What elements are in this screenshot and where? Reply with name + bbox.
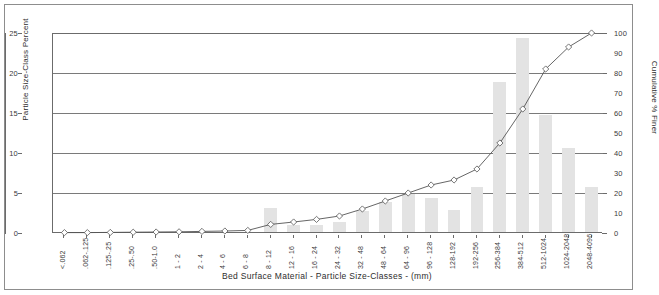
x-axis-tick-label: 2 - 4 xyxy=(197,254,204,269)
x-axis-tick-label: 128-192 xyxy=(449,242,456,269)
x-axis-tick-label: 48 - 64 xyxy=(380,246,387,269)
y-axis-right-tick-label: 70 xyxy=(614,89,640,98)
y-axis-left-tick-label: 20 xyxy=(0,69,18,78)
x-axis-tick-label: 16 - 24 xyxy=(311,246,318,269)
x-axis-tick-mark xyxy=(293,235,294,238)
data-point-marker xyxy=(588,30,594,36)
x-axis-tick-mark xyxy=(132,235,133,238)
plot-area xyxy=(52,33,602,233)
x-axis-tick-mark xyxy=(476,235,477,238)
y-axis-left-tick-label: 5 xyxy=(0,189,18,198)
y-axis-left-title: Particle Size-Class Percent xyxy=(21,0,30,145)
y-axis-right-tick-label: 10 xyxy=(614,209,640,218)
y-axis-left-tick-label: 25 xyxy=(0,29,18,38)
data-point-marker xyxy=(451,177,457,183)
y-axis-left-tick-mark xyxy=(18,153,22,154)
data-point-marker xyxy=(268,221,274,227)
x-axis-tick-mark xyxy=(384,235,385,238)
x-axis-tick-label: 1 - 2 xyxy=(174,254,181,269)
y-axis-right-tick-label: 0 xyxy=(614,229,640,238)
x-axis-tick-mark xyxy=(178,235,179,238)
data-point-marker xyxy=(336,213,342,219)
x-axis-tick-mark xyxy=(453,235,454,238)
y-axis-left-tick-label: 10 xyxy=(0,149,18,158)
x-axis-tick-label: 12 - 16 xyxy=(288,246,295,269)
x-axis-title: Bed Surface Material - Particle Size-Cla… xyxy=(52,271,602,281)
chart-frame: 0510152025 Particle Size-Class Percent 0… xyxy=(4,4,633,290)
y-axis-right-tick-mark xyxy=(602,233,607,234)
x-axis-tick-label: .25-.50 xyxy=(128,246,135,269)
y-axis-right-tick-label: 90 xyxy=(614,49,640,58)
x-axis-tick-label: 96 - 128 xyxy=(426,242,433,269)
cumulative-line-series xyxy=(53,33,603,233)
x-axis-tick-label: 2048-4096 xyxy=(586,234,593,269)
data-point-marker xyxy=(176,229,182,235)
x-axis-tick-mark xyxy=(270,235,271,238)
x-axis-tick-label: 6 - 8 xyxy=(242,254,249,269)
data-point-marker xyxy=(359,206,365,212)
x-axis-tick-label: 64 - 96 xyxy=(403,246,410,269)
y-axis-right-tick-label: 50 xyxy=(614,129,640,138)
x-axis-tick-label: .50-1.0 xyxy=(151,246,158,269)
x-axis-tick-mark xyxy=(247,235,248,238)
x-axis-tick-mark xyxy=(522,235,523,238)
x-axis-tick-label: 24 - 32 xyxy=(334,246,341,269)
data-point-marker xyxy=(291,219,297,225)
x-axis-tick-label: 384-512 xyxy=(517,242,524,269)
x-axis-tick-mark xyxy=(430,235,431,238)
data-point-marker xyxy=(222,228,228,234)
y-axis-left-tick-mark xyxy=(18,233,22,234)
y-axis-left-tick-label: 0 xyxy=(0,229,18,238)
x-axis-tick-label: 192-256 xyxy=(472,242,479,269)
y-axis-left-tick-mark xyxy=(18,193,22,194)
x-axis-tick-label: 256-384 xyxy=(494,242,501,269)
x-axis-tick-mark xyxy=(316,235,317,238)
x-axis-tick-mark xyxy=(155,235,156,238)
x-axis-tick-label: 32 - 48 xyxy=(357,246,364,269)
y-axis-right-line xyxy=(5,33,6,234)
data-point-marker xyxy=(199,228,205,234)
x-axis-labels: <.062.062-.125.125-.25.25-.50.50-1.01 - … xyxy=(52,235,602,271)
x-axis-tick-label: 8 - 12 xyxy=(265,250,272,269)
data-point-marker xyxy=(520,106,526,112)
cumulative-line xyxy=(64,33,591,233)
data-point-marker xyxy=(313,216,319,222)
x-axis-tick-mark xyxy=(361,235,362,238)
y-axis-right-tick-label: 20 xyxy=(614,189,640,198)
y-axis-right-tick-label: 100 xyxy=(614,29,640,38)
x-axis-tick-mark xyxy=(407,235,408,238)
y-axis-right-tick-label: 60 xyxy=(614,109,640,118)
data-point-marker xyxy=(245,227,251,233)
data-point-marker xyxy=(405,190,411,196)
data-point-marker xyxy=(428,182,434,188)
x-axis-tick-label: 4 - 6 xyxy=(219,254,226,269)
x-axis-tick-label: .062-.125 xyxy=(82,238,89,269)
x-axis-tick-mark xyxy=(499,235,500,238)
y-axis-left-tick-label: 15 xyxy=(0,109,18,118)
x-axis-tick-label: .125-.25 xyxy=(105,242,112,269)
x-axis-tick-mark xyxy=(63,235,64,238)
y-axis-right: 0102030405060708090100 xyxy=(602,5,644,261)
x-axis-tick-label: <.062 xyxy=(59,250,66,269)
y-axis-right-tick-label: 40 xyxy=(614,149,640,158)
x-axis-tick-label: 512-1024 xyxy=(540,238,547,269)
data-point-marker xyxy=(382,198,388,204)
y-axis-right-tick-label: 30 xyxy=(614,169,640,178)
x-axis-tick-mark xyxy=(109,235,110,238)
x-axis-tick-label: 1024-2048 xyxy=(563,234,570,269)
x-axis-tick-mark xyxy=(201,235,202,238)
x-axis-tick-mark xyxy=(338,235,339,238)
y-axis-right-title: Cumulative % Finer xyxy=(650,23,659,173)
y-axis-right-tick-label: 80 xyxy=(614,69,640,78)
x-axis-tick-mark xyxy=(224,235,225,238)
